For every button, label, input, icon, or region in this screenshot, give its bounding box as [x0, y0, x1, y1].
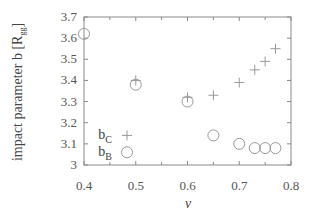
data-point-b-b: [208, 130, 219, 141]
x-axis-label: v: [185, 196, 192, 211]
y-axis-label: impact parameter b [Rgg]: [10, 23, 27, 161]
y-tick-label: 3.6: [61, 30, 78, 45]
data-point-b-c: [270, 44, 280, 54]
x-tick-label: 0.7: [231, 178, 248, 193]
legend-marker: [122, 147, 133, 158]
data-point-b-b: [270, 143, 281, 154]
data-point-b-b: [260, 143, 271, 154]
x-tick-label: 0.4: [76, 178, 93, 193]
plot-frame: [84, 17, 291, 165]
data-point-b-b: [249, 143, 260, 154]
y-tick-label: 3: [71, 157, 78, 172]
legend: bCbB: [98, 127, 132, 162]
x-tick-label: 0.5: [128, 178, 144, 193]
legend-label: bB: [98, 144, 112, 162]
data-point-b-c: [250, 65, 260, 75]
y-tick-label: 3.2: [61, 115, 77, 130]
legend-label: bC: [98, 127, 112, 145]
data-point-b-c: [260, 56, 270, 66]
y-tick-label: 3.1: [61, 136, 77, 151]
data-point-b-c: [208, 90, 218, 100]
y-tick-label: 3.3: [61, 94, 77, 109]
x-tick-label: 0.6: [179, 178, 196, 193]
y-tick-label: 3.5: [61, 51, 77, 66]
data-point-b-b: [234, 138, 245, 149]
data-point-b-c: [234, 78, 244, 88]
y-tick-label: 3.4: [61, 72, 78, 87]
scatter-chart: 0.40.50.60.70.8 33.13.23.33.43.53.63.7 b…: [0, 0, 312, 222]
y-tick-label: 3.7: [61, 9, 78, 24]
legend-marker: [122, 130, 132, 140]
x-tick-label: 0.8: [283, 178, 299, 193]
